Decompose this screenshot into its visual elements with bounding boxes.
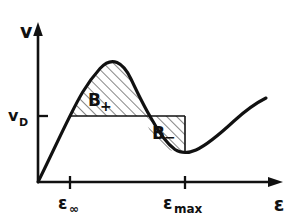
x-tick-eps-max-sub: max: [174, 202, 203, 216]
b-minus-sub: −: [164, 129, 176, 145]
right-arrow-icon: [268, 177, 283, 187]
y-tick-vd: v D: [8, 106, 28, 129]
x-tick-epsilon-infinity: ε ∞: [58, 193, 79, 216]
velocity-strain-diagram: v ε v D ε ∞ ε max B + B −: [0, 0, 299, 224]
up-arrow-icon: [33, 22, 43, 36]
x-tick-eps-inf-main: ε: [58, 193, 67, 213]
figure-container: v ε v D ε ∞ ε max B + B −: [0, 0, 299, 224]
x-tick-eps-inf-sub: ∞: [69, 202, 79, 216]
velocity-curve: [38, 62, 266, 182]
y-tick-vd-main: v: [8, 106, 19, 125]
b-plus-sub: +: [100, 98, 112, 114]
y-tick-vd-sub: D: [19, 116, 28, 129]
x-axis-label: ε: [274, 193, 285, 215]
x-tick-eps-max-main: ε: [163, 193, 172, 213]
y-axis-label: v: [20, 20, 33, 42]
x-tick-epsilon-max: ε max: [163, 193, 203, 216]
